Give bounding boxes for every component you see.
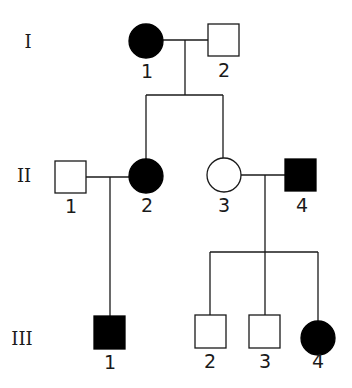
generation-label-III: III: [11, 328, 32, 349]
individual-I-2-unaffected-male: [208, 24, 239, 56]
pedigree-lines: [86, 40, 318, 321]
individual-label: 2: [141, 194, 153, 216]
individual-label: 4: [296, 194, 308, 216]
individual-label: 3: [218, 194, 230, 216]
individual-label: 1: [65, 195, 77, 217]
individual-label: 1: [104, 351, 116, 373]
individual-label: 2: [204, 350, 216, 372]
individual-III-2-unaffected-male: [195, 315, 226, 348]
individual-label: 2: [218, 59, 230, 81]
individual-label: 3: [259, 350, 271, 372]
individual-II-3-unaffected-female: [207, 158, 241, 192]
individual-label: 4: [312, 350, 324, 372]
individual-II-2-affected-female: [129, 159, 163, 193]
individual-label: 1: [141, 60, 153, 82]
individual-III-1-affected-male: [94, 316, 125, 349]
individual-I-1-affected-female: [129, 24, 163, 58]
generation-label-I: I: [24, 31, 31, 52]
individual-II-4-affected-male: [285, 159, 316, 191]
individual-II-1-unaffected-male: [55, 161, 86, 193]
pedigree-diagram: I II III 1 2 1 2 3 4 1 2 3 4: [0, 0, 352, 388]
individual-III-3-unaffected-male: [249, 315, 280, 348]
generation-label-II: II: [17, 165, 31, 186]
